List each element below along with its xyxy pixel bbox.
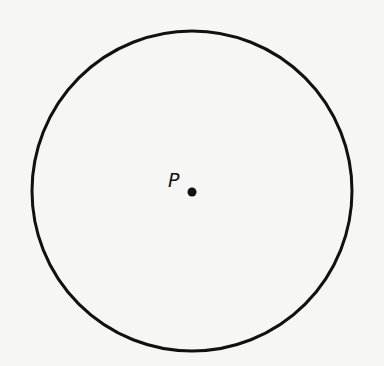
diagram-canvas: P	[0, 0, 384, 366]
point-p-dot	[188, 188, 197, 197]
point-p-label: P	[168, 169, 180, 191]
circle-diagram: P	[0, 0, 384, 366]
